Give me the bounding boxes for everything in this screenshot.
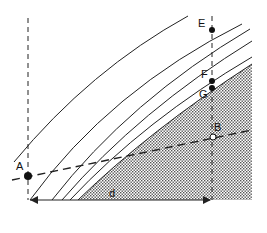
point-e-marker [209, 27, 215, 33]
point-g-label: G [199, 88, 208, 100]
point-g-marker [209, 85, 215, 91]
arrowhead-left-icon [30, 196, 38, 204]
wavefront-diagram: d A E F G B [0, 0, 267, 233]
point-b-label: B [214, 121, 221, 133]
shaded-region [78, 64, 252, 200]
point-e-label: E [198, 17, 205, 29]
distance-label: d [109, 187, 115, 199]
point-a-label: A [16, 160, 24, 172]
point-a-marker [24, 172, 32, 180]
point-f-label: F [201, 68, 208, 80]
point-b-marker [210, 134, 216, 140]
point-f-marker [209, 78, 215, 84]
